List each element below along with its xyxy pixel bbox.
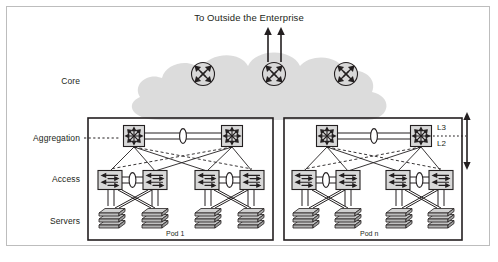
podn-access-3[interactable]: [386, 171, 410, 190]
podn-agg-left[interactable]: [317, 126, 338, 147]
pod-n-access-server-links: [302, 190, 444, 208]
core-router-left[interactable]: [192, 63, 215, 86]
pod1-servers-2[interactable]: [142, 209, 168, 229]
podn-servers-4[interactable]: [428, 209, 454, 229]
podn-servers-1[interactable]: [293, 209, 319, 229]
pod-1-agg-access-links-solid: [110, 147, 252, 171]
pod-n-access-interlinks: [316, 177, 429, 183]
pod1-agg-left[interactable]: [124, 126, 145, 147]
podn-access-4[interactable]: [429, 171, 453, 190]
pod-n-agg-access-links-dashed: [304, 147, 441, 169]
double-arrow-icon: [463, 112, 470, 170]
core-router-center[interactable]: [263, 63, 286, 86]
link-ellipse-icon-pod1-access-a: [129, 173, 136, 188]
network-topology-figure: To Outside the Enterprise Core Aggregati…: [0, 0, 498, 262]
pod-1-access-interlinks: [122, 177, 240, 183]
pod-1: [88, 118, 273, 240]
pod-n: [284, 118, 462, 240]
link-ellipse-icon-podn-access-b: [416, 173, 423, 188]
topology-canvas: [0, 0, 498, 262]
pod1-servers-4[interactable]: [238, 209, 264, 229]
pod1-agg-right[interactable]: [222, 126, 243, 147]
link-ellipse-icon-pod1-agg: [180, 129, 187, 144]
pod-n-agg-access-links-solid: [304, 147, 441, 171]
link-ellipse-icon-podn-access-a: [323, 173, 330, 188]
podn-servers-3[interactable]: [386, 209, 412, 229]
pod1-servers-1[interactable]: [99, 209, 125, 229]
link-ellipse-icon-pod1-access-b: [226, 173, 233, 188]
pod1-access-4[interactable]: [240, 171, 264, 190]
link-ellipse-icon-podn-agg: [371, 129, 378, 144]
pod-1-access-server-links: [108, 190, 254, 208]
pod1-access-2[interactable]: [143, 171, 167, 190]
pod1-access-3[interactable]: [195, 171, 219, 190]
podn-access-1[interactable]: [292, 171, 316, 190]
pod1-servers-3[interactable]: [195, 209, 221, 229]
core-router-right[interactable]: [335, 63, 358, 86]
podn-servers-2[interactable]: [335, 209, 361, 229]
pod1-access-1[interactable]: [98, 171, 122, 190]
podn-access-2[interactable]: [336, 171, 360, 190]
